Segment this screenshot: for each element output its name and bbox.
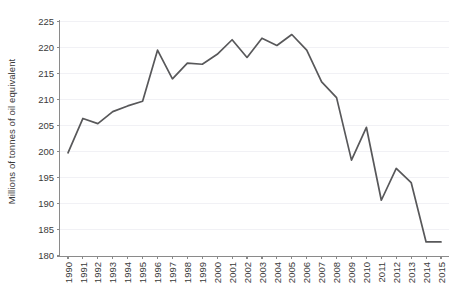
x-tick-label: 2009 <box>346 262 357 283</box>
x-tick-label: 2005 <box>286 262 297 283</box>
x-tick-label: 1992 <box>92 262 103 283</box>
x-tick-label: 2004 <box>272 262 283 283</box>
x-tick-label: 1998 <box>182 262 193 283</box>
y-axis-title-label: Millions of tonnes of oil equivalent <box>7 58 18 204</box>
x-tick-label: 2011 <box>376 262 387 282</box>
x-tick-label: 1999 <box>197 262 208 283</box>
x-tick-label: 1995 <box>137 262 148 283</box>
x-tick-label: 2010 <box>361 262 372 283</box>
x-tick-label: 2007 <box>316 262 327 283</box>
x-tick-label: 2002 <box>242 262 253 283</box>
y-tick-label: 205 <box>38 120 54 131</box>
gridlines <box>60 22 449 230</box>
x-tick-label: 1994 <box>122 262 133 283</box>
x-tick-label: 1993 <box>107 262 118 283</box>
y-tick-label: 180 <box>38 250 54 261</box>
x-tick-label: 2008 <box>331 262 342 283</box>
x-tick-label: 2014 <box>421 262 432 283</box>
x-tick-label: 2015 <box>436 262 447 283</box>
x-tick-label: 2012 <box>391 262 402 283</box>
x-tick-label: 1991 <box>78 262 89 283</box>
y-tick-label: 215 <box>38 68 54 79</box>
y-axis-tick-labels: 180185190195200205210215220225 <box>38 16 54 262</box>
line-chart-svg: 180185190195200205210215220225 199019911… <box>24 0 453 302</box>
plot-area-wrapper: 180185190195200205210215220225 199019911… <box>24 0 453 302</box>
y-tick-label: 220 <box>38 42 54 53</box>
chart-container: Millions of tonnes of oil equivalent 180… <box>0 0 453 302</box>
y-tick-label: 210 <box>38 94 54 105</box>
y-tick-label: 195 <box>38 172 54 183</box>
x-tick-label: 2006 <box>301 262 312 283</box>
y-axis-title: Millions of tonnes of oil equivalent <box>0 0 24 262</box>
x-tick-label: 1996 <box>152 262 163 283</box>
y-tick-label: 185 <box>38 224 54 235</box>
x-tick-label: 2003 <box>257 262 268 283</box>
y-tick-label: 225 <box>38 16 54 27</box>
x-tick-label: 2013 <box>406 262 417 283</box>
x-tick-label: 2001 <box>227 262 238 283</box>
y-tick-label: 190 <box>38 198 54 209</box>
data-series-line <box>68 35 441 242</box>
x-tick-label: 1990 <box>63 262 74 283</box>
x-axis-tick-labels: 1990199119921993199419951996199719981999… <box>63 262 447 283</box>
x-tick-label: 2000 <box>212 262 223 283</box>
y-tick-label: 200 <box>38 146 54 157</box>
x-tick-label: 1997 <box>167 262 178 283</box>
